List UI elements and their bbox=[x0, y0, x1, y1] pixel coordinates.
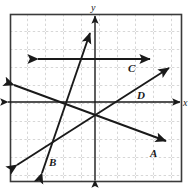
line-b-label: B bbox=[48, 156, 56, 168]
line-c-label: C bbox=[128, 62, 136, 74]
x-axis-label: x bbox=[182, 97, 188, 108]
coordinate-plane-svg: A B C D x y bbox=[0, 0, 192, 191]
y-axis-label: y bbox=[90, 2, 96, 13]
line-d-label: D bbox=[136, 89, 145, 101]
graph-figure: A B C D x y bbox=[0, 0, 192, 191]
line-a-label: A bbox=[149, 147, 157, 159]
